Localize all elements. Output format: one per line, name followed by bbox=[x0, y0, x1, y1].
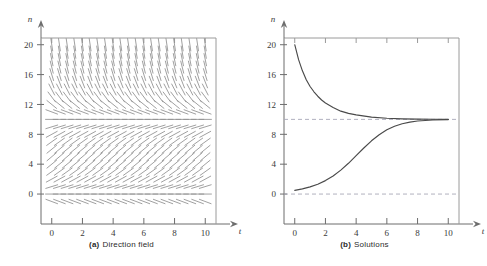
slope-mark bbox=[118, 84, 124, 95]
slope-mark bbox=[170, 160, 180, 168]
solutions-axes bbox=[280, 20, 481, 227]
slope-mark bbox=[95, 84, 101, 95]
slope-mark bbox=[162, 153, 171, 161]
slope-mark bbox=[139, 145, 149, 153]
x-tick-label: 8 bbox=[415, 228, 420, 238]
solutions-curves bbox=[295, 45, 449, 191]
slope-mark bbox=[193, 153, 202, 161]
slope-mark bbox=[108, 153, 117, 161]
y-tick-label: 8 bbox=[272, 130, 277, 140]
slope-mark bbox=[156, 84, 162, 95]
slope-mark bbox=[64, 84, 70, 95]
direction-field-slope-marks bbox=[46, 39, 212, 204]
y-tick-label: 4 bbox=[272, 159, 277, 169]
slope-mark bbox=[85, 153, 94, 161]
slope-mark bbox=[103, 84, 109, 95]
slope-mark bbox=[162, 160, 172, 168]
slope-mark bbox=[162, 145, 172, 153]
slope-mark bbox=[62, 153, 71, 161]
slope-mark bbox=[185, 153, 194, 161]
slope-mark bbox=[139, 153, 148, 161]
slope-mark bbox=[126, 84, 132, 95]
x-axis-arrow bbox=[473, 221, 481, 227]
slope-mark bbox=[78, 153, 87, 161]
y-tick-label: 0 bbox=[29, 189, 34, 199]
slope-mark bbox=[62, 145, 72, 153]
slope-mark bbox=[62, 160, 72, 168]
slope-mark bbox=[202, 92, 209, 102]
slope-mark bbox=[93, 145, 103, 153]
slope-mark bbox=[200, 145, 210, 153]
slope-mark bbox=[78, 145, 88, 153]
slope-mark bbox=[47, 145, 57, 153]
slope-mark bbox=[116, 160, 126, 168]
slope-mark bbox=[85, 145, 95, 153]
x-tick-label: 4 bbox=[111, 228, 116, 238]
slope-mark bbox=[70, 160, 80, 168]
caption-tag-b: (b) bbox=[340, 240, 351, 249]
x-axis-name-label: t bbox=[482, 226, 485, 236]
slope-mark bbox=[101, 160, 111, 168]
slope-mark bbox=[116, 145, 126, 153]
slope-mark bbox=[164, 84, 170, 95]
y-tick-label: 20 bbox=[24, 40, 34, 50]
slope-mark bbox=[193, 160, 203, 168]
slope-mark bbox=[87, 84, 93, 95]
slope-mark bbox=[72, 84, 78, 95]
slope-mark bbox=[147, 153, 156, 161]
slope-mark bbox=[154, 145, 164, 153]
slope-mark bbox=[70, 145, 80, 153]
solutions-plot: nt0481216200246810 bbox=[243, 0, 486, 266]
slope-mark bbox=[141, 84, 147, 95]
slope-mark bbox=[131, 160, 141, 168]
caption-tag-a: (a) bbox=[89, 240, 99, 249]
slope-mark bbox=[179, 84, 185, 95]
slope-mark bbox=[193, 145, 203, 153]
slope-mark bbox=[108, 160, 118, 168]
x-tick-label: 10 bbox=[444, 228, 454, 238]
slope-mark bbox=[93, 153, 102, 161]
y-tick-label: 0 bbox=[272, 189, 277, 199]
slope-mark bbox=[101, 153, 110, 161]
slope-mark bbox=[149, 84, 155, 95]
slope-mark bbox=[177, 145, 187, 153]
slope-mark bbox=[170, 145, 180, 153]
y-axis-name-label: n bbox=[28, 14, 33, 24]
caption-text-a: Direction field bbox=[102, 240, 153, 249]
slope-mark bbox=[116, 153, 125, 161]
slope-mark bbox=[47, 160, 57, 168]
x-tick-label: 2 bbox=[80, 228, 85, 238]
caption-solutions: (b)Solutions bbox=[243, 240, 486, 249]
slope-mark bbox=[70, 153, 79, 161]
slope-mark bbox=[154, 160, 164, 168]
slope-mark bbox=[178, 153, 187, 161]
x-tick-label: 8 bbox=[172, 228, 177, 238]
figure-direction-field-and-solutions: nt0481216200246810 (a)Direction field nt… bbox=[0, 0, 487, 266]
slope-mark bbox=[147, 160, 157, 168]
x-axis-name-label: t bbox=[239, 226, 242, 236]
y-tick-label: 8 bbox=[29, 130, 34, 140]
slope-mark bbox=[78, 160, 88, 168]
solutions-tick-labels: nt0481216200246810 bbox=[267, 14, 485, 238]
slope-mark bbox=[170, 153, 179, 161]
y-axis-name-label: n bbox=[271, 14, 276, 24]
slope-mark bbox=[101, 145, 111, 153]
caption-direction-field: (a)Direction field bbox=[0, 240, 243, 249]
slope-mark bbox=[57, 84, 63, 95]
slope-mark bbox=[110, 84, 116, 95]
slope-mark bbox=[154, 153, 163, 161]
slope-mark bbox=[55, 145, 65, 153]
slope-mark bbox=[93, 160, 103, 168]
x-tick-label: 6 bbox=[385, 228, 390, 238]
y-tick-label: 20 bbox=[267, 40, 277, 50]
slope-mark bbox=[177, 160, 187, 168]
slope-mark bbox=[172, 84, 178, 95]
y-tick-label: 16 bbox=[24, 70, 34, 80]
slope-mark bbox=[85, 160, 95, 168]
slope-mark bbox=[124, 153, 133, 161]
slope-mark bbox=[80, 84, 86, 95]
panel-direction-field: nt0481216200246810 (a)Direction field bbox=[0, 0, 243, 266]
slope-mark bbox=[108, 145, 118, 153]
solution-curve bbox=[295, 45, 449, 120]
y-tick-label: 12 bbox=[267, 100, 276, 110]
